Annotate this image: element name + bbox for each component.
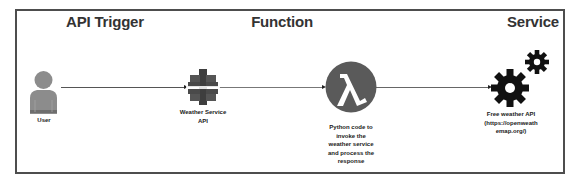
gears-icon (490, 50, 550, 108)
connector-user-to-api (61, 87, 185, 88)
lambda-label: Python code to invoke the weather servic… (328, 123, 374, 166)
lambda-icon (325, 61, 377, 113)
heading-api-trigger: API Trigger (66, 13, 144, 30)
heading-service: Service (507, 13, 559, 30)
service-label: Free weather API (https://openweath emap… (484, 110, 537, 136)
api-label: Weather Service API (180, 108, 227, 125)
user-label: User (37, 116, 50, 125)
heading-function: Function (251, 13, 313, 30)
user-icon (27, 70, 60, 114)
api-gateway-icon (186, 69, 220, 105)
connector-api-to-lambda (219, 87, 324, 88)
diagram-frame (15, 9, 565, 174)
connector-lambda-to-service (376, 87, 489, 88)
